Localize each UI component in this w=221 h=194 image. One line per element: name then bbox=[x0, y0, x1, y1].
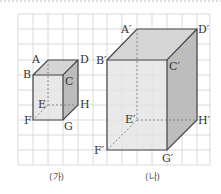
vertex-G: G bbox=[64, 120, 73, 133]
diagram-canvas: A B C D E F G H (가) A′ B′ C′ D′ E′ F′ G′… bbox=[0, 0, 221, 194]
cuboid-figure: A B C D E F G H (가) A′ B′ C′ D′ E′ F′ G′… bbox=[0, 0, 221, 194]
vertex-A-prime: A′ bbox=[120, 23, 132, 36]
vertex-G-prime: G′ bbox=[162, 152, 174, 165]
vertex-D-prime: D′ bbox=[198, 23, 210, 36]
vertex-D: D bbox=[80, 53, 89, 66]
vertex-B-prime: B′ bbox=[96, 54, 107, 67]
vertex-C-prime: C′ bbox=[169, 60, 180, 73]
cuboid-small bbox=[33, 60, 78, 120]
vertex-A: A bbox=[31, 53, 41, 66]
cuboid-large bbox=[107, 29, 197, 150]
vertex-F: F bbox=[24, 114, 32, 127]
vertex-E: E bbox=[38, 98, 46, 111]
caption-ga: (가) bbox=[49, 172, 64, 182]
vertex-H-prime: H′ bbox=[198, 114, 211, 127]
vertex-B: B bbox=[23, 68, 31, 81]
vertex-C: C bbox=[65, 75, 73, 88]
vertex-H: H bbox=[80, 98, 90, 111]
caption-na: (나) bbox=[145, 172, 160, 182]
vertex-E-prime: E′ bbox=[125, 113, 136, 126]
vertex-F-prime: F′ bbox=[94, 144, 105, 157]
